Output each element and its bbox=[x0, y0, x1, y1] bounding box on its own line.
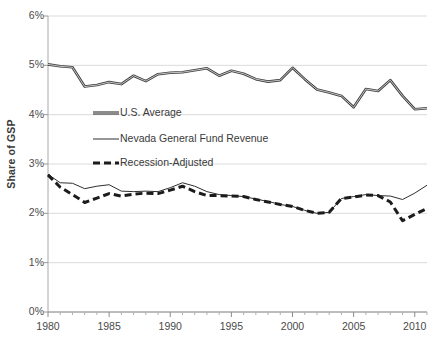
axis-tickmarks bbox=[44, 16, 427, 317]
legend-line-samples bbox=[93, 113, 119, 163]
chart-container: Share of GSP 0%1%2%3%4%5%6% 198019851990… bbox=[0, 0, 444, 349]
series-line-0 bbox=[48, 64, 427, 109]
series-line-2 bbox=[48, 175, 427, 221]
plot-area bbox=[0, 0, 444, 349]
legend-label-nevada-general-fund-revenue: Nevada General Fund Revenue bbox=[120, 133, 268, 144]
legend-label-recession-adjusted: Recession-Adjusted bbox=[120, 157, 213, 168]
legend-label-us-average: U.S. Average bbox=[120, 107, 182, 118]
